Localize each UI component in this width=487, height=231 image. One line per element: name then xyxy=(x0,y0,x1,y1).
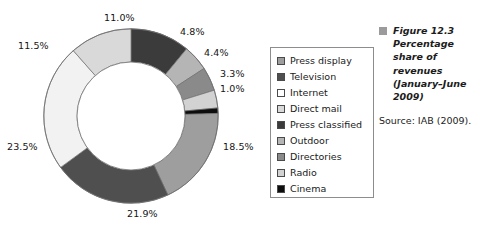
slice-label-direct-mail: 11.5% xyxy=(18,40,49,51)
slice-label-television: 21.9% xyxy=(127,208,158,219)
legend-item-label: Press display xyxy=(290,56,352,66)
legend-swatch-icon xyxy=(277,169,285,177)
legend-item[interactable]: Outdoor xyxy=(277,133,373,149)
legend-item[interactable]: Directories xyxy=(277,149,373,165)
legend-item-label: Radio xyxy=(290,168,317,178)
legend-item[interactable]: Press classified xyxy=(277,117,373,133)
caption-line-5: (January–June xyxy=(393,77,466,90)
legend-item[interactable]: Press display xyxy=(277,53,373,69)
legend-item-label: Internet xyxy=(290,88,328,98)
caption-source: Source: IAB (2009). xyxy=(379,114,483,127)
chart-legend: Press displayTelevisionInternetDirect ma… xyxy=(270,47,374,198)
slice-label-cinema: 1.0% xyxy=(220,83,245,94)
figure-container: 11.0% 4.8% 4.4% 3.3% 1.0% 18.5% 21.9% 23… xyxy=(0,0,487,231)
slice-label-radio: 3.3% xyxy=(220,68,245,79)
legend-item-label: Direct mail xyxy=(290,104,342,114)
donut-graphic xyxy=(42,27,220,205)
slice-label-directories: 4.4% xyxy=(204,47,229,58)
caption-line-4: revenues xyxy=(393,64,466,77)
donut-chart: 11.0% 4.8% 4.4% 3.3% 1.0% 18.5% 21.9% 23… xyxy=(0,0,265,231)
legend-swatch-icon xyxy=(277,153,285,161)
caption-line-6: 2009) xyxy=(393,90,466,103)
donut-inner-hole xyxy=(77,62,185,170)
legend-item-label: Press classified xyxy=(290,120,362,130)
caption-marker-icon xyxy=(379,27,387,35)
legend-swatch-icon xyxy=(277,57,285,65)
legend-swatch-icon xyxy=(277,121,285,129)
legend-item[interactable]: Direct mail xyxy=(277,101,373,117)
slice-label-press-classified: 11.0% xyxy=(104,12,135,23)
legend-swatch-icon xyxy=(277,73,285,81)
legend-swatch-icon xyxy=(277,89,285,97)
caption-line-3: share of xyxy=(393,50,466,63)
legend-item-label: Directories xyxy=(290,152,342,162)
legend-item-label: Television xyxy=(290,72,336,82)
legend-swatch-icon xyxy=(277,137,285,145)
legend-swatch-icon xyxy=(277,105,285,113)
caption-header: Figure 12.3 Percentage share of revenues… xyxy=(379,24,483,103)
legend-item[interactable]: Cinema xyxy=(277,181,373,197)
figure-caption: Figure 12.3 Percentage share of revenues… xyxy=(379,24,483,127)
legend-swatch-icon xyxy=(277,185,285,193)
slice-label-outdoor: 4.8% xyxy=(180,26,205,37)
legend-item[interactable]: Television xyxy=(277,69,373,85)
legend-item-label: Outdoor xyxy=(290,136,329,146)
caption-line-2: Percentage xyxy=(393,37,466,50)
slice-label-press-display: 18.5% xyxy=(223,141,254,152)
legend-item[interactable]: Internet xyxy=(277,85,373,101)
legend-item-label: Cinema xyxy=(290,184,326,194)
legend-item[interactable]: Radio xyxy=(277,165,373,181)
donut-svg xyxy=(42,27,220,205)
slice-label-internet: 23.5% xyxy=(7,141,38,152)
caption-figure-number: Figure 12.3 xyxy=(393,24,466,37)
caption-title-block: Figure 12.3 Percentage share of revenues… xyxy=(393,24,466,103)
